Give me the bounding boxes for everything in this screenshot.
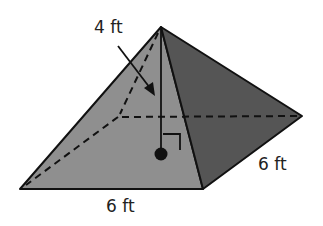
base-center-dot — [155, 148, 168, 161]
side-edge-label: 6 ft — [258, 156, 287, 173]
height-label: 4 ft — [94, 19, 123, 36]
pyramid-figure — [0, 0, 323, 226]
pyramid-diagram: 4 ft 6 ft 6 ft — [0, 0, 323, 226]
front-edge-label: 6 ft — [106, 198, 135, 215]
